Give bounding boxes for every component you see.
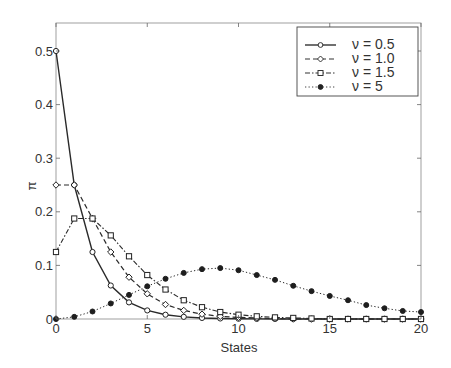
marker-circle-open-icon [163, 312, 168, 317]
marker-circle-filled-icon [72, 314, 77, 319]
marker-square-open-icon [108, 233, 113, 238]
marker-square-open-icon [254, 314, 259, 319]
marker-square-open-icon [90, 216, 95, 221]
x-tick-label: 20 [414, 321, 428, 336]
marker-circle-open-icon [181, 314, 186, 319]
marker-circle-open-icon [145, 308, 150, 313]
legend-label: ν = 5 [352, 78, 383, 94]
legend-marker-square-open-icon [318, 71, 323, 76]
marker-circle-filled-icon [273, 277, 278, 282]
legend-marker-circle-open-icon [318, 43, 323, 48]
marker-square-open-icon [126, 254, 131, 259]
marker-square-open-icon [53, 249, 58, 254]
y-tick-label: 0.3 [35, 151, 53, 166]
y-tick-label: 0.1 [35, 258, 53, 273]
marker-square-open-icon [309, 316, 314, 321]
marker-circle-filled-icon [163, 276, 168, 281]
marker-circle-open-icon [90, 249, 95, 254]
marker-circle-filled-icon [346, 298, 351, 303]
marker-square-open-icon [181, 298, 186, 303]
marker-circle-filled-icon [291, 283, 296, 288]
marker-circle-filled-icon [400, 308, 405, 313]
marker-circle-filled-icon [236, 268, 241, 273]
marker-circle-filled-icon [327, 293, 332, 298]
marker-circle-filled-icon [309, 289, 314, 294]
marker-square-open-icon [272, 315, 277, 320]
marker-circle-filled-icon [108, 301, 113, 306]
marker-square-open-icon [345, 316, 350, 321]
x-tick-label: 10 [231, 321, 245, 336]
marker-circle-filled-icon [127, 292, 132, 297]
y-axis-label: π [24, 181, 39, 190]
x-tick-label: 0 [52, 321, 59, 336]
x-axis-label: States [221, 340, 258, 355]
marker-circle-filled-icon [254, 273, 259, 278]
marker-circle-filled-icon [145, 284, 150, 289]
x-tick-label: 15 [323, 321, 337, 336]
marker-circle-open-icon [126, 300, 131, 305]
marker-circle-filled-icon [200, 267, 205, 272]
marker-square-open-icon [291, 315, 296, 320]
y-tick-label: 0.5 [35, 44, 53, 59]
y-tick-label: 0 [46, 312, 53, 327]
y-tick-label: 0.2 [35, 204, 53, 219]
marker-square-open-icon [400, 316, 405, 321]
marker-circle-filled-icon [419, 310, 424, 315]
marker-square-open-icon [199, 305, 204, 310]
marker-circle-filled-icon [364, 303, 369, 308]
marker-circle-filled-icon [181, 270, 186, 275]
marker-circle-open-icon [108, 283, 113, 288]
marker-square-open-icon [72, 216, 77, 221]
marker-square-open-icon [382, 316, 387, 321]
marker-square-open-icon [145, 272, 150, 277]
marker-square-open-icon [218, 309, 223, 314]
marker-square-open-icon [163, 287, 168, 292]
marker-circle-filled-icon [382, 306, 387, 311]
legend-marker-circle-filled-icon [318, 85, 323, 90]
marker-square-open-icon [364, 316, 369, 321]
x-tick-label: 5 [144, 321, 151, 336]
marker-circle-filled-icon [218, 266, 223, 271]
chart: 0510152000.10.20.30.40.5 States π ν = 0.… [0, 0, 451, 368]
y-tick-label: 0.4 [35, 97, 53, 112]
legend: ν = 0.5 ν = 1.0 ν = 1.5 ν = 5 [297, 27, 418, 96]
marker-circle-filled-icon [90, 309, 95, 314]
